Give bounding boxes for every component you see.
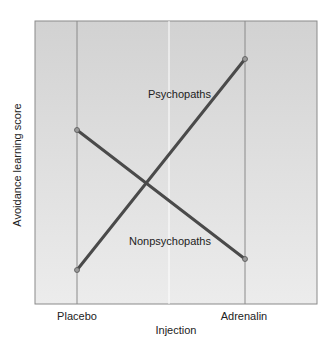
series-label-psychopaths: Psychopaths — [148, 88, 211, 100]
point-psychopaths-placebo — [75, 268, 80, 273]
point-nonpsychopaths-adrenalin — [243, 257, 248, 262]
x-axis-label: Injection — [156, 324, 197, 336]
x-tick-placebo: Placebo — [57, 310, 97, 322]
point-psychopaths-adrenalin — [243, 57, 248, 62]
x-tick-adrenalin: Adrenalin — [221, 310, 267, 322]
y-axis-label: Avoidance learning score — [11, 103, 23, 226]
point-nonpsychopaths-placebo — [75, 128, 80, 133]
line-chart: Psychopaths Nonpsychopaths Placebo Adren… — [0, 0, 331, 344]
series-label-nonpsychopaths: Nonpsychopaths — [129, 235, 211, 247]
